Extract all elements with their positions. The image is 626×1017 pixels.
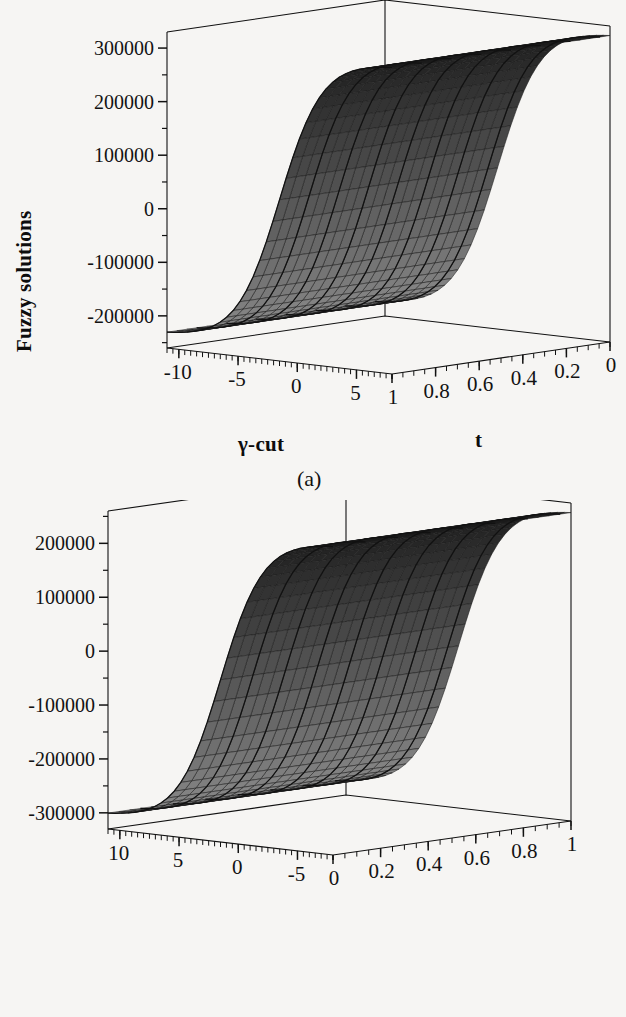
svg-text:0.2: 0.2 <box>554 359 580 383</box>
svg-text:200000: 200000 <box>35 532 95 554</box>
panel-a-z-axis-title: t <box>475 428 482 453</box>
svg-text:1: 1 <box>567 832 578 856</box>
svg-text:0.4: 0.4 <box>416 852 443 876</box>
svg-text:0: 0 <box>606 353 617 377</box>
panel-b: Fuzzy solutions 2000001000000-100000-200… <box>0 500 626 1017</box>
panel-a-plot: 3000002000001000000-100000-200000-10-505… <box>0 0 626 500</box>
panel-a: Fuzzy solutions 3000002000001000000-1000… <box>0 0 626 500</box>
svg-text:0: 0 <box>329 866 340 890</box>
svg-text:0: 0 <box>144 198 154 220</box>
svg-text:-300000: -300000 <box>28 802 95 824</box>
panel-a-x-axis-title: γ-cut <box>238 432 284 457</box>
svg-text:-100000: -100000 <box>87 251 154 273</box>
svg-text:-200000: -200000 <box>87 305 154 327</box>
svg-text:-100000: -100000 <box>28 694 95 716</box>
svg-text:5: 5 <box>173 848 184 872</box>
panel-b-plot: 2000001000000-100000-200000-3000001050-5… <box>0 500 626 1017</box>
svg-text:-200000: -200000 <box>28 748 95 770</box>
svg-text:0: 0 <box>291 374 302 398</box>
svg-text:10: 10 <box>108 841 129 865</box>
svg-text:0: 0 <box>232 855 243 879</box>
panel-a-caption: (a) <box>297 466 321 492</box>
svg-text:0.2: 0.2 <box>368 859 394 883</box>
svg-text:100000: 100000 <box>94 144 154 166</box>
svg-text:-5: -5 <box>228 367 246 391</box>
svg-text:5: 5 <box>350 381 361 405</box>
svg-text:-5: -5 <box>288 862 306 886</box>
svg-text:0.6: 0.6 <box>464 846 490 870</box>
svg-text:100000: 100000 <box>35 586 95 608</box>
svg-text:0.6: 0.6 <box>467 372 493 396</box>
svg-text:1: 1 <box>388 385 399 409</box>
svg-text:0.8: 0.8 <box>511 839 537 863</box>
svg-text:200000: 200000 <box>94 91 154 113</box>
svg-text:-10: -10 <box>164 360 192 384</box>
svg-text:300000: 300000 <box>94 37 154 59</box>
svg-text:0.4: 0.4 <box>511 366 538 390</box>
figure-container: Fuzzy solutions 3000002000001000000-1000… <box>0 0 626 1017</box>
svg-text:0: 0 <box>85 640 95 662</box>
svg-text:0.8: 0.8 <box>423 379 449 403</box>
